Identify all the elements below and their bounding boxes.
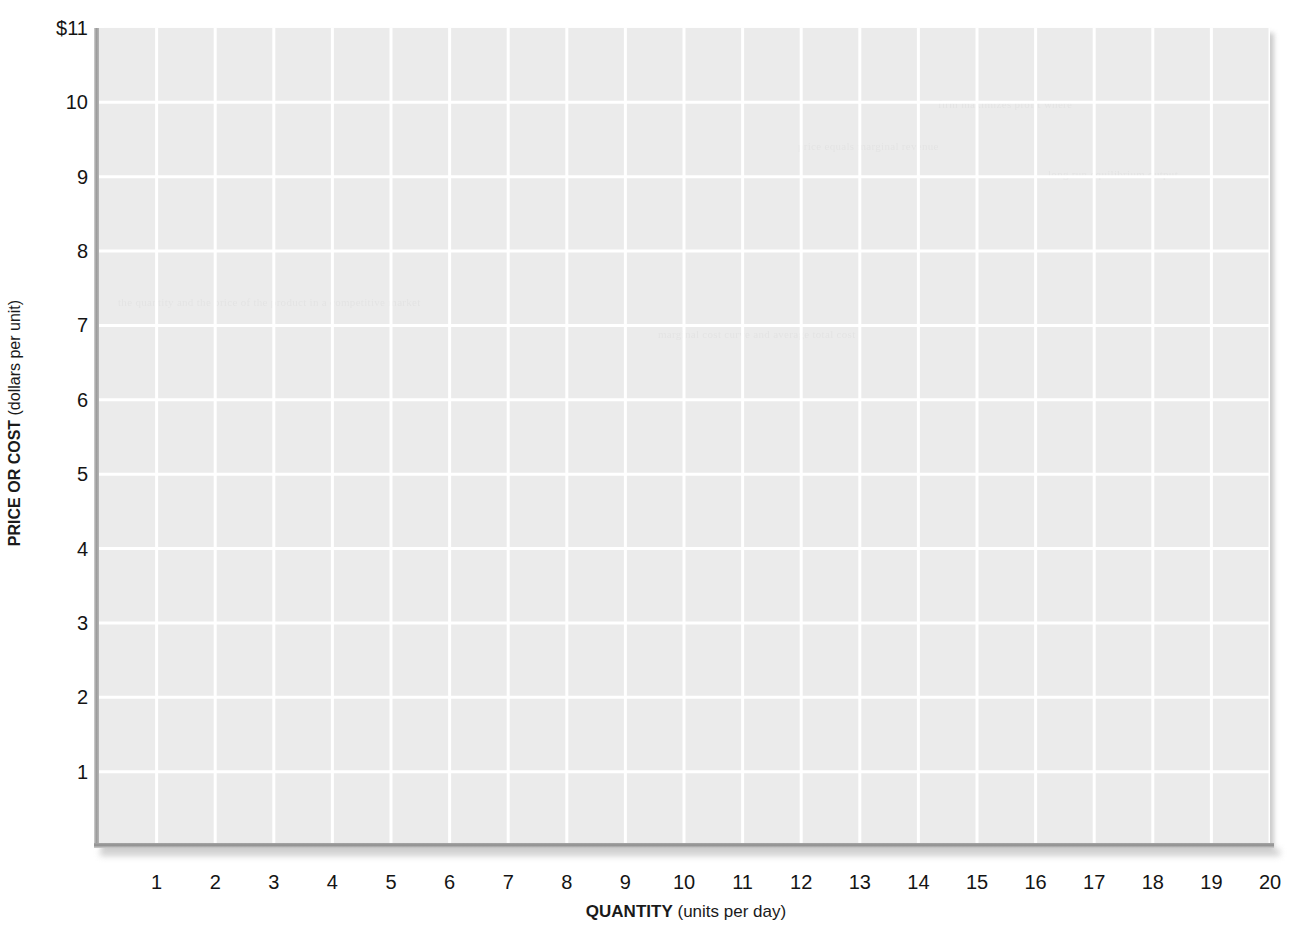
x-tick-label: 19	[1181, 872, 1241, 892]
x-axis-tick-labels: 1234567891011121314151617181920	[0, 872, 1301, 900]
x-tick-label: 13	[830, 872, 890, 892]
x-axis-title-bold: QUANTITY	[586, 902, 673, 921]
x-axis-spine	[94, 843, 1274, 848]
x-tick-label: 15	[947, 872, 1007, 892]
x-tick-label: 5	[361, 872, 421, 892]
x-tick-label: 8	[537, 872, 597, 892]
x-axis-title: QUANTITY (units per day)	[98, 903, 1274, 920]
x-axis-title-sub: (units per day)	[677, 902, 786, 921]
x-tick-label: 3	[244, 872, 304, 892]
y-tick-label: 3	[0, 613, 88, 633]
x-tick-label: 9	[595, 872, 655, 892]
y-axis-spine	[94, 28, 99, 848]
y-tick-label: 6	[0, 390, 88, 410]
y-tick-label: 4	[0, 539, 88, 559]
x-tick-label: 17	[1064, 872, 1124, 892]
plot-area: the quantity and the price of the produc…	[98, 28, 1270, 846]
x-tick-label: 14	[888, 872, 948, 892]
x-tick-label: 11	[713, 872, 773, 892]
x-tick-label: 20	[1240, 872, 1300, 892]
y-tick-label: $11	[0, 18, 88, 38]
x-tick-label: 6	[420, 872, 480, 892]
x-axis-spine-shadow	[100, 849, 1280, 856]
y-tick-label: 1	[0, 762, 88, 782]
x-tick-label: 2	[185, 872, 245, 892]
y-tick-label: 5	[0, 464, 88, 484]
x-tick-label: 7	[478, 872, 538, 892]
y-axis-tick-labels: 12345678910$11	[0, 0, 88, 936]
x-tick-label: 10	[654, 872, 714, 892]
y-tick-label: 2	[0, 687, 88, 707]
y-tick-label: 7	[0, 315, 88, 335]
chart-canvas: PRICE OR COST (dollars per unit) 1234567…	[0, 0, 1301, 936]
x-tick-label: 4	[302, 872, 362, 892]
x-tick-label: 16	[1006, 872, 1066, 892]
x-tick-label: 1	[127, 872, 187, 892]
x-tick-label: 12	[771, 872, 831, 892]
y-tick-label: 8	[0, 241, 88, 261]
y-tick-label: 10	[0, 92, 88, 112]
x-tick-label: 18	[1123, 872, 1183, 892]
y-tick-label: 9	[0, 167, 88, 187]
grid-lines	[98, 28, 1270, 846]
